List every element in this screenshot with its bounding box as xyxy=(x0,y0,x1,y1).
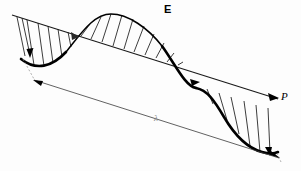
field-line xyxy=(178,62,183,65)
field-line xyxy=(38,23,44,66)
field-line xyxy=(145,34,154,55)
field-lines-upper-group xyxy=(17,14,183,66)
wave-curve-crest xyxy=(66,14,162,52)
field-line xyxy=(124,19,133,49)
field-label: E xyxy=(164,3,171,15)
field-line xyxy=(68,32,71,47)
propagation-label: P xyxy=(280,90,288,102)
field-line xyxy=(58,29,62,57)
dimension-arrow-icon-left xyxy=(33,80,43,86)
field-line xyxy=(102,14,111,42)
field-lines-lower-group xyxy=(207,89,270,153)
wave-diagram-figure: P E λ xyxy=(0,0,301,171)
field-line xyxy=(256,105,260,152)
wave-diagram-canvas: P E λ xyxy=(0,0,301,171)
propagation-arrow-icon xyxy=(268,93,279,101)
field-line xyxy=(48,26,53,63)
field-line xyxy=(91,17,101,39)
wave-curve-right-trough xyxy=(196,88,278,154)
propagation-arrow-group: P xyxy=(268,90,288,102)
wavelength-label: λ xyxy=(153,113,158,123)
field-line xyxy=(27,20,34,65)
field-line xyxy=(244,101,250,146)
wave-curve-group xyxy=(21,14,278,154)
field-line xyxy=(113,15,122,46)
field-line xyxy=(17,17,25,56)
field-line xyxy=(134,26,144,52)
field-line xyxy=(268,108,270,153)
wavelength-dimension-group: λ xyxy=(33,80,280,158)
